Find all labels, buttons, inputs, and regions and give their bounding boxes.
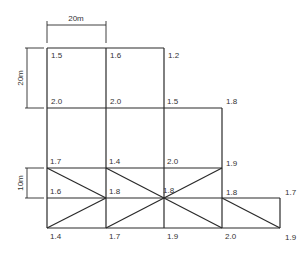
- dimension-label-left-10m: 10m: [16, 175, 25, 191]
- node-value-label: 1.7: [109, 232, 121, 241]
- node-value-label: 1.9: [167, 232, 179, 241]
- dimension-label-top: 20m: [68, 14, 84, 23]
- node-value-label: 1.9: [226, 159, 238, 168]
- dimension-label-left-20m: 20m: [16, 70, 25, 86]
- node-value-label: 1.7: [50, 157, 62, 166]
- node-value-label: 1.9: [285, 233, 297, 242]
- survey-grid-diagram: 20m 20m 10m 1.51.61.22.02.01.51.81.71.42…: [0, 0, 308, 254]
- dimension-horizontal-20m: [47, 21, 106, 43]
- grid-line: [164, 198, 222, 228]
- node-value-label: 2.0: [51, 97, 63, 106]
- grid-line: [47, 198, 106, 228]
- node-value-label: 1.4: [109, 157, 121, 166]
- grid-line: [222, 198, 280, 228]
- node-value-label: 1.8: [226, 97, 238, 106]
- node-value-label: 1.5: [167, 97, 179, 106]
- dimension-vertical-20m: [25, 48, 44, 108]
- node-value-label: 1.6: [50, 187, 62, 196]
- node-value-label: 1.5: [51, 51, 63, 60]
- node-value-label: 1.8: [163, 186, 175, 195]
- grid-line: [106, 198, 164, 228]
- dimension-vertical-10m: [25, 168, 44, 198]
- node-value-label: 2.0: [167, 157, 179, 166]
- node-value-label: 2.0: [110, 97, 122, 106]
- node-value-label: 1.8: [226, 188, 238, 197]
- node-value-label: 1.7: [285, 188, 297, 197]
- node-value-label: 1.8: [109, 187, 121, 196]
- grid-lines: [47, 48, 280, 228]
- node-value-label: 2.0: [225, 232, 237, 241]
- node-labels: 1.51.61.22.02.01.51.81.71.42.01.91.61.81…: [50, 51, 297, 242]
- node-value-label: 1.2: [168, 51, 180, 60]
- node-value-label: 1.4: [50, 232, 62, 241]
- node-value-label: 1.6: [110, 51, 122, 60]
